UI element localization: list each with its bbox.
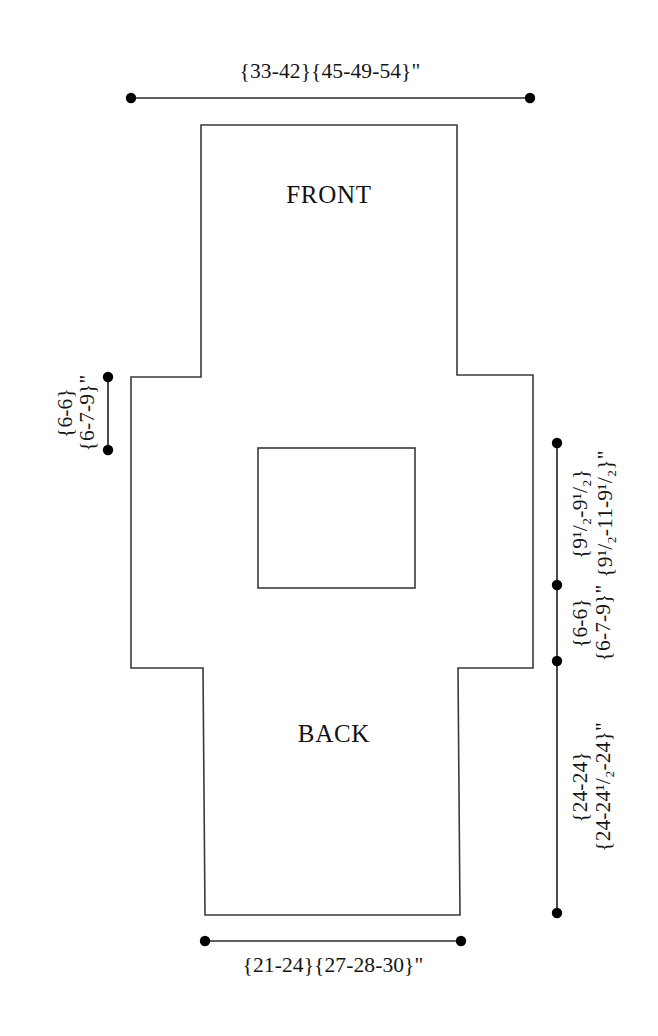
measure-top (126, 93, 535, 103)
inner-panel-rect (258, 448, 415, 588)
dimension-right-mid-a: {6-6} (568, 598, 592, 648)
dimension-left-upper: {6-6} (53, 388, 77, 438)
dimension-left-lower: {6-7-9}" (75, 375, 99, 452)
measure-bottom (200, 936, 466, 946)
dimension-right-upper-b: {9¹/₂-11-9¹/₂}" (593, 450, 617, 577)
dimension-right-lower-b: {24-24¹/₂-24}" (591, 722, 615, 852)
measure-right (552, 438, 562, 918)
panel-label-front: FRONT (286, 181, 371, 208)
dimension-top-width: {33-42}{45-49-54}" (240, 59, 421, 83)
pattern-diagram: FRONT BACK {33-42}{45-49-54}" {21-24}{27… (0, 0, 658, 1036)
dimension-right-upper-a: {9¹/₂-9¹/₂} (568, 469, 592, 559)
measure-left (103, 372, 113, 455)
dimension-bottom-width: {21-24}{27-28-30}" (243, 953, 424, 977)
panel-label-back: BACK (298, 720, 370, 747)
dimension-right-lower-a: {24-24} (568, 751, 592, 823)
dimension-right-mid-b: {6-7-9}" (591, 585, 615, 662)
